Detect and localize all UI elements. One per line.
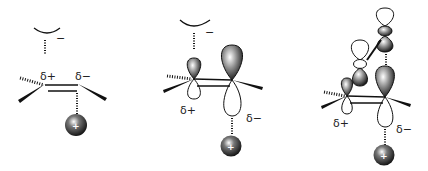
orbital-figure: − δ+ δ− + − [0, 0, 428, 171]
delta-plus-label: δ+ [180, 104, 196, 117]
double-bond-top [347, 96, 385, 97]
stacked-orbital-bottom-lobe [353, 68, 368, 86]
cation-charge: + [72, 121, 80, 131]
delta-minus-label: δ− [396, 123, 412, 136]
double-bond-top [194, 79, 232, 80]
p-orbital-lobe-upper-right [221, 45, 242, 80]
p-orbital-lobe-lower-right [377, 97, 392, 127]
delta-plus-label: δ+ [333, 117, 349, 130]
p-orbital-lobe-lower-left [188, 79, 201, 99]
p-orbital-lobe-lower-left [342, 96, 353, 114]
stacked-orbital-top-lobe [376, 8, 393, 26]
anion-charge: − [205, 26, 214, 39]
panel-2: − δ+ δ− + [163, 20, 263, 157]
stacked-orbital-top-lobe [351, 40, 368, 60]
cation-charge: + [380, 151, 388, 161]
p-orbital-lobe-upper-left [341, 78, 352, 96]
wedge-bond-left [18, 84, 45, 103]
wedge-bond-right [78, 84, 107, 101]
stacked-orbital-node [378, 26, 392, 36]
stacked-orbital-bottom-lobe [377, 36, 393, 52]
p-orbital-lobe-upper-right [376, 66, 395, 97]
delta-plus-label: δ+ [40, 70, 56, 83]
hashed-bond [324, 92, 345, 96]
delta-minus-label: δ− [75, 70, 91, 83]
p-orbital-lobe-upper-left [187, 58, 201, 79]
hashed-bond [167, 76, 192, 79]
delta-minus-label: δ− [246, 112, 262, 125]
panel-1: − δ+ δ− + [18, 28, 107, 136]
cation-charge: + [227, 142, 235, 152]
anion-charge: − [56, 32, 65, 45]
panel-3: δ+ δ− + [321, 8, 412, 166]
stacked-orbital-node [354, 60, 367, 69]
